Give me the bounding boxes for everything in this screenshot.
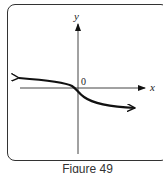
function-curve <box>19 78 135 108</box>
x-axis-label: x <box>149 81 155 93</box>
graph: y x 0 <box>0 0 163 173</box>
figure-caption: Figure 49 <box>0 162 163 173</box>
y-axis-label: y <box>73 10 79 22</box>
origin-label: 0 <box>81 76 86 87</box>
